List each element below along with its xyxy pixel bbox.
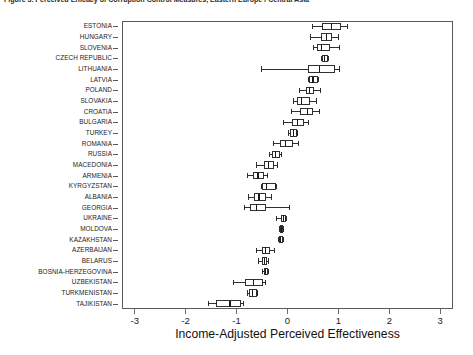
boxplot-item [280, 226, 284, 232]
y-axis-tick [113, 261, 118, 262]
y-axis-tick [113, 26, 118, 27]
y-axis-label: ARMENIA [83, 171, 112, 181]
boxplot-item [276, 215, 286, 221]
y-axis-tick [113, 122, 118, 123]
y-axis-tick [113, 304, 118, 305]
y-axis-label: BOSNIA-HERZEGOVINA [38, 267, 112, 277]
y-axis: ESTONIAHUNGARYSLOVENIACZECH REPUBLICLITH… [0, 21, 118, 309]
y-axis-tick [113, 250, 118, 251]
y-axis-label: BULGARIA [79, 117, 112, 127]
y-axis-label: CROATIA [84, 107, 112, 117]
y-axis-label: LITHUANIA [78, 64, 112, 74]
y-axis-tick [113, 101, 118, 102]
y-axis-tick [113, 80, 118, 81]
y-axis-label: SLOVENIA [80, 43, 112, 53]
y-axis-label: ROMANIA [82, 139, 112, 149]
y-axis-tick [113, 58, 118, 59]
y-axis-tick [113, 240, 118, 241]
boxplot-item [311, 34, 339, 40]
y-axis-tick [113, 197, 118, 198]
y-axis-label: UKRAINE [83, 213, 112, 223]
x-axis-tick-label: 3 [425, 315, 455, 326]
boxplot-item [257, 162, 278, 168]
boxplot-item [248, 290, 258, 296]
y-axis-tick [113, 186, 118, 187]
x-axis-tick-label: 0 [273, 315, 303, 326]
y-axis-tick [113, 69, 118, 70]
y-axis-tick [113, 272, 118, 273]
boxplot-series [122, 21, 453, 309]
y-axis-label: ALBANIA [85, 192, 112, 202]
x-axis-tick-label: -1 [222, 315, 252, 326]
y-axis-label: MOLDOVA [80, 224, 112, 234]
y-axis-label: TURKEY [86, 128, 112, 138]
y-axis-tick [113, 176, 118, 177]
x-axis-tick-label: -3 [120, 315, 150, 326]
y-axis-label: TURKMENISTAN [61, 288, 112, 298]
boxplot-item [234, 279, 266, 285]
boxplot-figure: Figure 3. Perceived Efficacy of Corrupti… [0, 0, 473, 355]
y-axis-label: RUSSIA [88, 149, 112, 159]
boxplot-item [262, 269, 269, 275]
boxplot-item [313, 23, 347, 29]
boxplot-item [300, 87, 321, 93]
y-axis-tick [113, 37, 118, 38]
y-axis-label: LATVIA [90, 75, 112, 85]
y-axis-label: BELARUS [82, 256, 112, 266]
y-axis-label: POLAND [85, 85, 112, 95]
boxplot-item [208, 301, 243, 307]
y-axis-tick [113, 154, 118, 155]
x-axis-tick-label: 2 [374, 315, 404, 326]
boxplot-item [314, 45, 340, 51]
boxplot-item [308, 77, 318, 83]
y-axis-label: ESTONIA [84, 21, 112, 31]
y-axis-tick [113, 133, 118, 134]
figure-caption: Figure 3. Perceived Efficacy of Corrupti… [4, 0, 469, 7]
boxplot-item [270, 151, 282, 157]
boxplot-item [293, 98, 316, 104]
y-axis-label: TAJIKISTAN [76, 299, 112, 309]
y-axis-tick [113, 144, 118, 145]
boxplot-item [273, 141, 298, 147]
x-axis-tick-label: -2 [171, 315, 201, 326]
boxplot-item [284, 119, 308, 125]
y-axis-label: GEORGIA [82, 203, 112, 213]
y-axis-tick [113, 165, 118, 166]
y-axis-label: MACEDONIA [73, 160, 112, 170]
y-axis-tick [113, 48, 118, 49]
y-axis-tick [113, 218, 118, 219]
y-axis-tick [113, 282, 118, 283]
y-axis-label: KYRGYZSTAN [69, 181, 112, 191]
y-axis-label: HUNGARY [80, 32, 112, 42]
y-axis-label: CZECH REPUBLIC [56, 53, 112, 63]
boxplot-item [248, 173, 268, 179]
y-axis-label: SLOVAKIA [80, 96, 112, 106]
y-axis-label: KAZAKHSTAN [69, 235, 112, 245]
y-axis-label: UZBEKISTAN [72, 277, 112, 287]
y-axis-tick [113, 229, 118, 230]
boxplot-item [279, 237, 284, 243]
y-axis-tick [113, 208, 118, 209]
y-axis-tick [113, 112, 118, 113]
boxplot-item [289, 130, 298, 136]
y-axis-tick [113, 293, 118, 294]
x-axis-title: Income-Adjusted Perceived Effectiveness [122, 327, 453, 341]
x-axis-tick-label: 1 [323, 315, 353, 326]
boxplot-item [259, 258, 269, 264]
boxplot-item [261, 66, 340, 72]
boxplot-item [291, 109, 320, 115]
y-axis-label: AZERBAIJAN [72, 245, 112, 255]
boxplot-item [249, 194, 271, 200]
boxplot-item [261, 183, 276, 189]
boxplot-item [256, 247, 274, 253]
y-axis-tick [113, 90, 118, 91]
boxplot-item [322, 55, 329, 61]
boxplot-item [244, 205, 289, 211]
